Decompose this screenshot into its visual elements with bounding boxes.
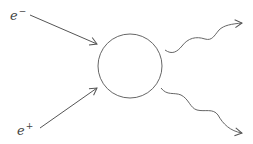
photon-1-wavy-line xyxy=(165,23,242,53)
electron-arrow xyxy=(30,15,97,44)
positron-arrow xyxy=(40,88,97,128)
vertex-circle xyxy=(98,34,162,98)
feynman-diagram xyxy=(0,0,253,144)
photon-2-wavy-line xyxy=(161,88,242,133)
